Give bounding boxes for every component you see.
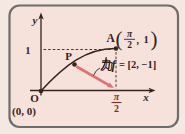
x-axis-label: x xyxy=(142,91,149,103)
origin-label: O xyxy=(30,92,39,104)
diagram-canvas: y x 1 O (0, 0) P A ( π 2 , 1 ) π 2 力 f =… xyxy=(0,0,185,134)
y-tick-1-label: 1 xyxy=(25,45,30,56)
point-p-label: P xyxy=(65,50,72,62)
point-a-letter: A xyxy=(107,32,116,44)
a-frac-numerator-pi: π xyxy=(127,29,133,39)
y-axis-label: y xyxy=(31,14,38,26)
a-paren-open: ( xyxy=(116,27,123,51)
origin-coordinates-label: (0, 0) xyxy=(12,105,36,118)
x-tick-denominator: 2 xyxy=(114,103,119,114)
point-p-dot xyxy=(72,62,77,67)
a-second-coordinate: 1 xyxy=(144,34,149,45)
force-vector-value: = [2, −1] xyxy=(119,59,156,70)
a-frac-denominator: 2 xyxy=(127,40,132,50)
x-tick-numerator-pi: π xyxy=(114,91,120,102)
a-paren-close: ) xyxy=(151,27,158,51)
point-origin-dot xyxy=(39,89,44,94)
math-figure: y x 1 O (0, 0) P A ( π 2 , 1 ) π 2 力 f =… xyxy=(0,0,185,134)
